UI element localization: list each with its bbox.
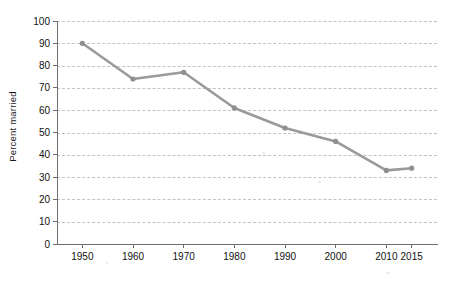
data-point-marker: 1970: 77 (181, 70, 186, 75)
data-point-marker: 1980: 61 (232, 105, 237, 110)
data-point-marker: 2000: 46 (333, 139, 338, 144)
data-series-layer: 1950: 901960: 741970: 771980: 611990: 52… (0, 0, 453, 289)
data-point-marker: 1950: 90 (80, 41, 85, 46)
line-chart: Percent married 0102030405060708090100 1… (0, 0, 453, 289)
data-point-marker: 2010: 33 (384, 168, 389, 173)
data-point-marker: 2015: 34 (409, 166, 414, 171)
data-point-marker: 1990: 52 (282, 125, 287, 130)
data-point-marker: 1960: 74 (130, 76, 135, 81)
series-line (82, 43, 411, 170)
